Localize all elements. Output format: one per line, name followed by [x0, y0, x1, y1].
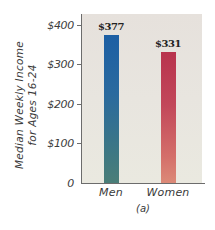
y-axis-title-line-1: Median Weekly Income: [13, 30, 26, 180]
bar-men: [104, 35, 119, 183]
figure-caption: (a): [128, 203, 158, 214]
bar-women: [161, 52, 176, 183]
y-tick-label-400: $400: [47, 19, 74, 32]
y-axis-title: Median Weekly Income for Ages 16-24: [6, 30, 46, 180]
x-axis-line: [81, 183, 205, 184]
x-category-label-women: Women: [143, 186, 193, 199]
y-tick-label-100: $100: [47, 137, 74, 150]
y-axis-line: [81, 14, 82, 184]
y-axis-title-line-2: for Ages 16-24: [26, 30, 39, 180]
y-tick-label-300: $300: [47, 58, 74, 71]
bar-value-men: $377: [91, 21, 131, 32]
bar-value-women: $331: [148, 38, 188, 49]
x-category-label-men: Men: [86, 186, 136, 199]
y-tick-label-200: $200: [47, 98, 74, 111]
y-tick-label-0: 0: [67, 177, 74, 190]
